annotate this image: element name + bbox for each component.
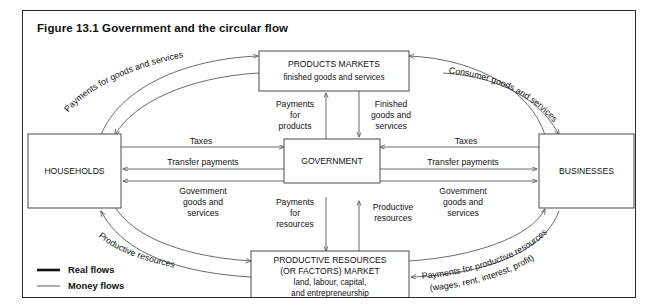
government-label: GOVERNMENT (301, 156, 363, 166)
productive-resources-line2: (OR FACTORS) MARKET (280, 266, 380, 276)
label-payments-for-resources: Payments for resources (276, 197, 314, 229)
svg-text:for: for (290, 208, 300, 218)
label-payments-for-goods-and-services: Payments for goods and services (62, 49, 185, 114)
label-productive-resources-up: Productive resources (373, 202, 414, 223)
label-taxes-right: Taxes (455, 136, 477, 146)
flow-consumer-goods-to-households (115, 73, 259, 135)
legend-real-flows-label: Real flows (68, 264, 114, 275)
label-transfer-payments-left: Transfer payments (167, 157, 238, 167)
box-businesses: BUSINESSES (539, 134, 634, 208)
productive-resources-line4: and entrepreneurship (291, 289, 369, 298)
households-label: HOUSEHOLDS (44, 166, 104, 176)
box-households: HOUSEHOLDS (28, 134, 121, 208)
products-markets-line2: finished goods and services (283, 73, 384, 82)
svg-text:services: services (447, 208, 479, 218)
label-taxes-left: Taxes (190, 136, 212, 146)
products-markets-line1: PRODUCTS MARKETS (288, 59, 380, 69)
svg-text:goods and: goods and (371, 110, 411, 120)
legend-money-flows-label: Money flows (68, 280, 124, 291)
label-payments-for-products: Payments for products (276, 99, 314, 131)
label-finished-goods-and-services: Finished goods and services (371, 99, 411, 131)
figure-frame: Figure 13.1 Government and the circular … (22, 10, 636, 298)
box-government: GOVERNMENT (284, 139, 380, 183)
box-productive-resources-market: PRODUCTIVE RESOURCES (OR FACTORS) MARKET… (251, 251, 409, 298)
label-government-goods-left: Government goods and services (179, 186, 227, 218)
businesses-label: BUSINESSES (559, 166, 614, 176)
svg-text:Government: Government (179, 186, 227, 196)
svg-text:services: services (187, 208, 219, 218)
svg-text:goods and: goods and (443, 197, 483, 207)
svg-text:Government: Government (439, 186, 487, 196)
box-products-markets: PRODUCTS MARKETS finished goods and serv… (259, 51, 409, 91)
svg-text:Payments: Payments (276, 99, 314, 109)
label-consumer-goods-and-services: Consumer goods and services (448, 65, 560, 124)
legend: Real flows Money flows (37, 264, 124, 291)
svg-text:products: products (279, 121, 312, 131)
svg-text:resources: resources (276, 219, 314, 229)
productive-resources-line1: PRODUCTIVE RESOURCES (273, 255, 386, 265)
circular-flow-diagram: PRODUCTS MARKETS finished goods and serv… (23, 11, 636, 298)
label-transfer-payments-right: Transfer payments (427, 157, 498, 167)
svg-text:services: services (375, 121, 407, 131)
svg-text:Productive: Productive (373, 202, 414, 212)
productive-resources-line3: land, labour, capital, (294, 278, 367, 287)
label-government-goods-right: Government goods and services (439, 186, 487, 218)
svg-text:Payments: Payments (276, 197, 314, 207)
svg-text:for: for (290, 110, 300, 120)
svg-text:resources: resources (374, 213, 412, 223)
svg-text:Finished: Finished (375, 99, 408, 109)
svg-text:goods and: goods and (183, 197, 223, 207)
